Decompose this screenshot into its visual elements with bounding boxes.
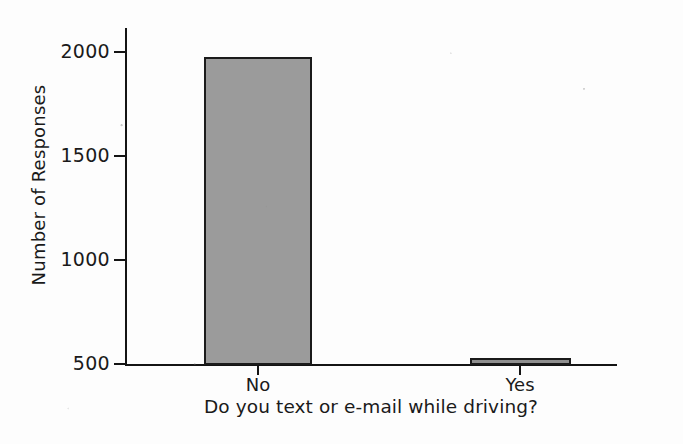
y-tick-2000	[114, 51, 125, 53]
bar-yes	[470, 358, 571, 365]
y-axis-line	[125, 28, 127, 366]
x-tick-label-no: No	[246, 374, 270, 395]
y-tick-label-500: 500	[58, 352, 110, 374]
y-axis-title: Number of Responses	[28, 15, 50, 355]
bar-no	[204, 57, 312, 365]
y-tick-1000	[114, 259, 125, 261]
x-tick-no	[257, 366, 259, 375]
bar-chart: 2000 1500 1000 500 No Yes Number of Resp…	[0, 0, 683, 444]
y-tick-1500	[114, 155, 125, 157]
y-tick-label-1500: 1500	[58, 144, 110, 166]
y-tick-label-2000: 2000	[58, 40, 110, 62]
x-tick-yes	[519, 366, 521, 375]
x-tick-label-yes: Yes	[505, 374, 534, 395]
y-tick-500	[114, 363, 125, 365]
x-axis-title: Do you text or e-mail while driving?	[125, 396, 617, 417]
paper-texture	[0, 0, 683, 444]
y-tick-label-1000: 1000	[58, 248, 110, 270]
